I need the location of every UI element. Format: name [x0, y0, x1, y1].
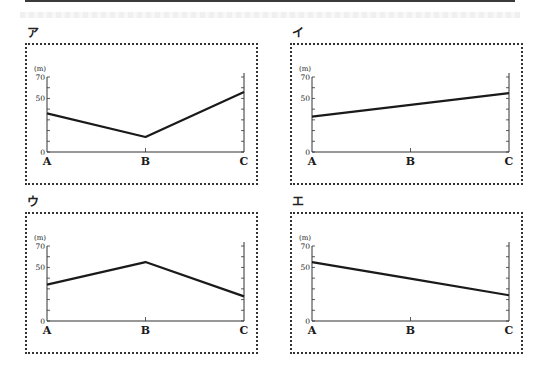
panel-label: エ	[292, 195, 304, 209]
line-chart: (m)05070ABC	[25, 43, 258, 185]
x-category-label: C	[505, 324, 514, 337]
elevation-line	[47, 262, 244, 296]
panel-label: ウ	[27, 195, 39, 209]
panel-u: ウ(m)05070ABC	[25, 195, 285, 365]
x-category-label: C	[240, 155, 249, 168]
y-tick-label: 70	[300, 73, 310, 82]
y-tick-label: 50	[35, 94, 45, 103]
panel-label: イ	[292, 26, 304, 40]
x-category-label: B	[406, 324, 415, 337]
panel-i: イ(m)05070ABC	[290, 26, 548, 196]
panel-label: ア	[27, 26, 39, 40]
x-category-label: C	[240, 324, 249, 337]
elevation-line	[312, 93, 509, 117]
y-tick-label: 50	[300, 94, 310, 103]
line-chart: (m)05070ABC	[290, 212, 523, 354]
panel-e: エ(m)05070ABC	[290, 195, 548, 365]
panel-a: ア(m)05070ABC	[25, 26, 285, 196]
x-category-label: A	[307, 155, 317, 168]
y-tick-label: 70	[35, 242, 45, 251]
x-category-label: A	[307, 324, 317, 337]
x-category-label: B	[141, 155, 150, 168]
line-chart: (m)05070ABC	[25, 212, 258, 354]
x-category-label: B	[406, 155, 415, 168]
y-tick-label: 50	[35, 263, 45, 272]
elevation-line	[312, 262, 509, 295]
y-tick-label: 70	[35, 73, 45, 82]
top-rule	[25, 0, 515, 2]
y-tick-label: 70	[300, 242, 310, 251]
elevation-line	[47, 92, 244, 137]
x-category-label: B	[141, 324, 150, 337]
faded-background-text	[20, 12, 520, 18]
x-category-label: A	[42, 155, 52, 168]
x-category-label: C	[505, 155, 514, 168]
x-category-label: A	[42, 324, 52, 337]
y-tick-label: 50	[300, 263, 310, 272]
line-chart: (m)05070ABC	[290, 43, 523, 185]
